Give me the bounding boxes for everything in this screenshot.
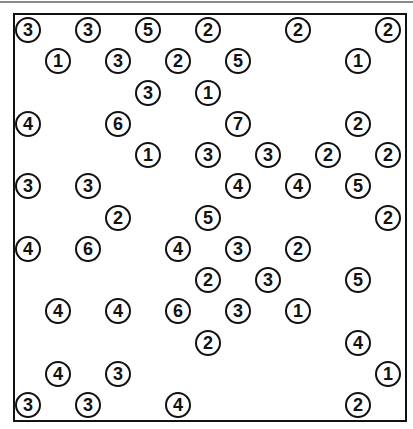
island-node[interactable]: 5 xyxy=(345,173,371,199)
island-node[interactable]: 3 xyxy=(75,17,101,43)
island-node[interactable]: 4 xyxy=(345,330,371,356)
island-node[interactable]: 3 xyxy=(255,267,281,293)
island-node[interactable]: 2 xyxy=(315,142,341,168)
island-node[interactable]: 3 xyxy=(135,80,161,106)
island-node[interactable]: 7 xyxy=(225,111,251,137)
island-node[interactable]: 3 xyxy=(15,173,41,199)
island-node[interactable]: 5 xyxy=(225,48,251,74)
island-node[interactable]: 4 xyxy=(45,298,71,324)
island-node[interactable]: 4 xyxy=(225,173,251,199)
island-node[interactable]: 5 xyxy=(135,17,161,43)
island-node[interactable]: 2 xyxy=(285,236,311,262)
island-node[interactable]: 4 xyxy=(15,111,41,137)
island-node[interactable]: 1 xyxy=(285,298,311,324)
island-node[interactable]: 2 xyxy=(195,330,221,356)
island-node[interactable]: 3 xyxy=(15,392,41,418)
island-node[interactable]: 5 xyxy=(345,267,371,293)
island-node[interactable]: 3 xyxy=(75,173,101,199)
island-node[interactable]: 6 xyxy=(75,236,101,262)
island-node[interactable]: 1 xyxy=(135,142,161,168)
island-node[interactable]: 3 xyxy=(225,298,251,324)
island-node[interactable]: 3 xyxy=(195,142,221,168)
island-node[interactable]: 2 xyxy=(195,267,221,293)
top-rule-divider xyxy=(0,1,413,3)
puzzle-board: 3352221325131467213322334452524643223544… xyxy=(13,13,407,422)
island-node[interactable]: 3 xyxy=(225,236,251,262)
island-node[interactable]: 2 xyxy=(345,111,371,137)
island-node[interactable]: 2 xyxy=(345,392,371,418)
island-node[interactable]: 6 xyxy=(165,298,191,324)
island-node[interactable]: 2 xyxy=(195,17,221,43)
island-node[interactable]: 1 xyxy=(45,48,71,74)
island-node[interactable]: 4 xyxy=(45,361,71,387)
island-node[interactable]: 2 xyxy=(285,17,311,43)
island-node[interactable]: 4 xyxy=(15,236,41,262)
island-node[interactable]: 6 xyxy=(105,111,131,137)
island-node[interactable]: 2 xyxy=(375,205,401,231)
island-node[interactable]: 1 xyxy=(375,361,401,387)
island-node[interactable]: 4 xyxy=(165,236,191,262)
island-node[interactable]: 3 xyxy=(15,17,41,43)
island-node[interactable]: 1 xyxy=(195,80,221,106)
island-node[interactable]: 3 xyxy=(105,361,131,387)
island-node[interactable]: 5 xyxy=(195,205,221,231)
island-node[interactable]: 2 xyxy=(375,142,401,168)
island-node[interactable]: 4 xyxy=(165,392,191,418)
island-node[interactable]: 2 xyxy=(375,17,401,43)
island-node[interactable]: 3 xyxy=(255,142,281,168)
island-node[interactable]: 4 xyxy=(105,298,131,324)
island-node[interactable]: 2 xyxy=(165,48,191,74)
island-node[interactable]: 2 xyxy=(105,205,131,231)
island-node[interactable]: 1 xyxy=(345,48,371,74)
island-node[interactable]: 4 xyxy=(285,173,311,199)
island-node[interactable]: 3 xyxy=(75,392,101,418)
island-node[interactable]: 3 xyxy=(105,48,131,74)
